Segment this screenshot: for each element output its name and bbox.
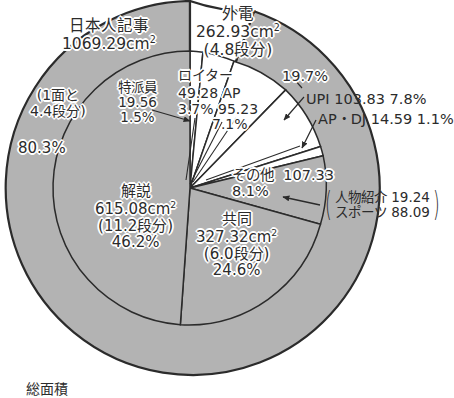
outer-label-gaiden-columns: (4.8段分) — [196, 42, 280, 59]
superscript-2: 2 — [274, 22, 280, 33]
bracket-right: ) — [433, 195, 440, 216]
inner-label-ap-percent: 7.1% — [178, 117, 258, 133]
inner-label-reuter-percent-and-ap-value: 3.7% 95.23 — [178, 102, 258, 118]
inner-label-tokuhain-percent: 1.5% — [118, 110, 157, 125]
outer-label-nihonjin-name: 日本人記事 — [62, 18, 156, 35]
inner-label-kyodo-columns: (6.0段分) — [196, 246, 277, 263]
outer-label-gaiden-area: 262.93cm2 — [196, 23, 280, 42]
inner-label-kyodo-name: 共同 — [196, 211, 277, 228]
inner-label-kaisetsu: 解説 615.08cm2 (11.2段分) 46.2% — [95, 183, 176, 251]
superscript-2: 2 — [170, 199, 176, 210]
columns-line-2: 4.4段分) — [30, 104, 86, 120]
inner-label-kyodo: 共同 327.32cm2 (6.0段分) 24.6% — [196, 211, 277, 279]
inner-label-kaisetsu-percent: 46.2% — [95, 234, 176, 251]
inner-label-kyodo-area: 327.32cm2 — [196, 228, 277, 246]
breakdown-sports: スポーツ 88.09 — [335, 205, 430, 220]
inner-label-sonota-percent: 8.1% — [232, 183, 334, 199]
inner-label-tokuhain-value: 19.56 — [118, 95, 157, 110]
inner-label-kaisetsu-columns: (11.2段分) — [95, 218, 176, 235]
outer-label-gaiden-name: 外電 — [196, 6, 280, 23]
outer-label-nihonjin-percent: 80.3% — [18, 140, 66, 157]
inner-label-kyodo-percent: 24.6% — [196, 262, 277, 279]
inner-label-reuter-value-and-ap-name: 49.28 AP — [178, 86, 258, 102]
inner-label-kaisetsu-area: 615.08cm2 — [95, 200, 176, 218]
bracket-left: ( — [325, 195, 332, 216]
superscript-2: 2 — [271, 227, 277, 238]
inner-label-reuter-name: ロイター — [178, 68, 233, 84]
sonota-breakdown-annotation: (人物紹介 19.24スポーツ 88.09) — [322, 190, 443, 220]
inner-label-tokuhain: 特派員 19.56 1.5% — [118, 80, 157, 125]
inner-label-kaisetsu-name: 解説 — [95, 183, 176, 200]
inner-label-tokuhain-name: 特派員 — [118, 80, 157, 95]
figure-caption: 総面積 — [26, 382, 68, 398]
superscript-2: 2 — [150, 34, 156, 45]
outer-label-gaiden-percent: 19.7% — [282, 68, 328, 84]
outer-label-nihonjin-columns: (1面と 4.4段分) — [30, 88, 86, 119]
outer-label-gaiden: 外電 262.93cm2 (4.8段分) — [196, 6, 280, 59]
outer-label-nihonjin-area: 1069.29cm2 — [62, 35, 156, 54]
inner-label-sonota-name-value: その他 107.33 — [232, 167, 334, 183]
outer-label-nihonjin: 日本人記事 1069.29cm2 — [62, 18, 156, 54]
inner-label-reuter: ロイター — [178, 68, 233, 84]
inner-label-upi: UPI 103.83 7.8% — [306, 91, 426, 107]
columns-line-1: (1面と — [30, 88, 86, 104]
inner-label-ap: 49.28 AP 3.7% 95.23 7.1% — [178, 86, 258, 133]
sonota-breakdown-body: 人物紹介 19.24スポーツ 88.09 — [335, 190, 430, 220]
inner-label-sonota: その他 107.33 8.1% — [232, 167, 334, 199]
breakdown-jinbutsu: 人物紹介 19.24 — [335, 190, 430, 205]
inner-label-apdj: AP・DJ 14.59 1.1% — [318, 111, 454, 127]
